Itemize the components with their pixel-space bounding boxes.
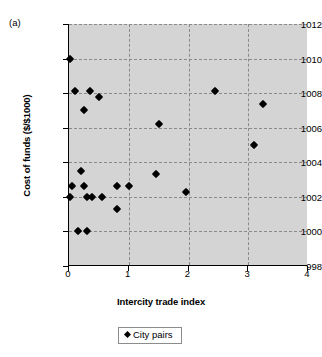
- data-point: [259, 99, 267, 107]
- y-tick-mark: [63, 231, 68, 232]
- y-tick-label: 1006: [262, 122, 322, 133]
- y-tick-label: 1008: [262, 88, 322, 99]
- legend: City pairs: [118, 327, 182, 344]
- scatter-plot-figure: (a) Cost of funds ($/$1000) Intercity tr…: [0, 0, 322, 357]
- y-tick-mark: [63, 59, 68, 60]
- gridline-vertical: [129, 24, 130, 265]
- data-point: [86, 87, 94, 95]
- data-point: [80, 182, 88, 190]
- y-tick-label: 1004: [262, 157, 322, 168]
- data-point: [80, 106, 88, 114]
- y-axis-title: Cost of funds ($/$1000): [21, 56, 32, 236]
- data-point: [98, 193, 106, 201]
- y-tick-mark: [63, 128, 68, 129]
- legend-label: City pairs: [133, 330, 173, 340]
- y-tick-mark: [63, 24, 68, 25]
- y-tick-mark: [63, 266, 68, 267]
- data-point: [250, 141, 258, 149]
- y-tick-label: 1012: [262, 19, 322, 30]
- diamond-marker-icon: [124, 331, 131, 338]
- data-point: [68, 182, 76, 190]
- x-tick-mark: [307, 266, 308, 271]
- y-tick-mark: [63, 197, 68, 198]
- clipped-title-remnant: [0, 0, 322, 3]
- y-tick-label: 1000: [262, 226, 322, 237]
- data-point: [113, 205, 121, 213]
- y-tick-mark: [63, 93, 68, 94]
- panel-label: (a): [9, 17, 21, 28]
- y-tick-mark: [63, 162, 68, 163]
- x-axis-title: Intercity trade index: [0, 296, 322, 307]
- data-point: [151, 170, 159, 178]
- data-point: [77, 167, 85, 175]
- data-point: [113, 182, 121, 190]
- data-point: [125, 182, 133, 190]
- x-tick-mark: [247, 266, 248, 271]
- data-point: [74, 227, 82, 235]
- data-point: [83, 227, 91, 235]
- data-point: [211, 87, 219, 95]
- x-tick-mark: [128, 266, 129, 271]
- y-tick-label: 1002: [262, 191, 322, 202]
- gridline-vertical: [189, 24, 190, 265]
- x-tick-mark: [188, 266, 189, 271]
- x-tick-mark: [68, 266, 69, 271]
- data-point: [71, 87, 79, 95]
- y-tick-label: 1010: [262, 53, 322, 64]
